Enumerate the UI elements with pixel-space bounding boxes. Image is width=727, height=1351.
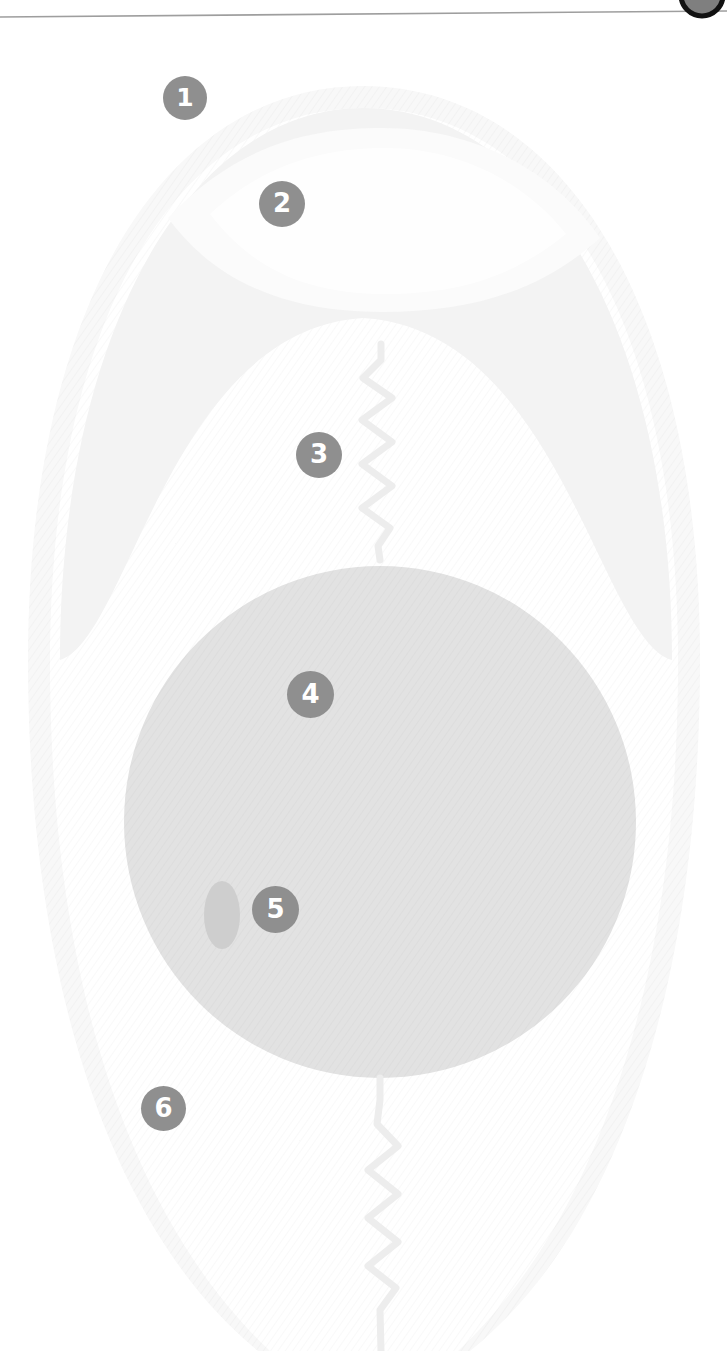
callout-marker-2[interactable]: 2 xyxy=(259,181,305,227)
callout-marker-1[interactable]: 1 xyxy=(163,76,207,120)
callout-marker-2-label: 2 xyxy=(273,190,291,216)
callout-marker-4[interactable]: 4 xyxy=(287,671,334,718)
callout-marker-6[interactable]: 6 xyxy=(141,1086,186,1131)
diagram-canvas: 1 2 3 4 5 6 xyxy=(0,0,727,1351)
corner-dark-disc xyxy=(681,0,723,16)
callout-marker-3-label: 3 xyxy=(310,441,328,467)
callout-marker-3[interactable]: 3 xyxy=(296,432,342,478)
anatomical-figure xyxy=(0,0,727,1351)
callout-marker-4-label: 4 xyxy=(301,681,319,707)
callout-marker-5[interactable]: 5 xyxy=(252,886,299,933)
small-inner-oval xyxy=(204,881,240,949)
header-divider-line xyxy=(0,11,727,17)
callout-marker-5-label: 5 xyxy=(266,896,284,922)
callout-marker-1-label: 1 xyxy=(176,85,193,110)
callout-marker-6-label: 6 xyxy=(154,1095,172,1121)
